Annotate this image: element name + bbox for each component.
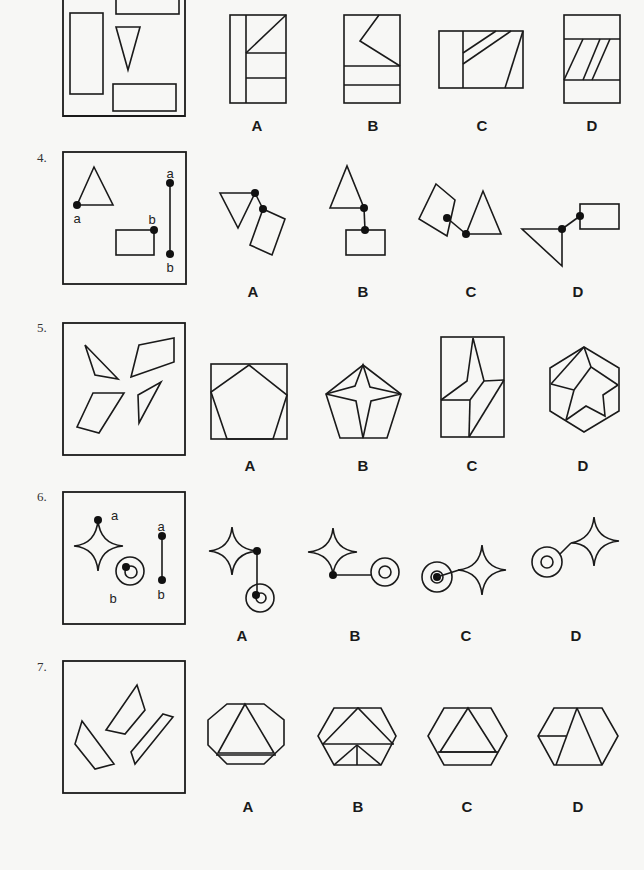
q6-option-d[interactable]: D <box>532 517 619 644</box>
quad-piece <box>106 685 145 734</box>
bottom-rectangle-shape <box>113 84 176 111</box>
quad-piece <box>131 338 174 377</box>
option-label: C <box>466 283 477 300</box>
strip-piece <box>131 714 173 764</box>
option-label: C <box>467 457 478 474</box>
question-6: 6. a b a b A <box>37 489 619 644</box>
question-3: A B C D <box>63 0 620 134</box>
tall-rectangle-shape <box>70 13 103 94</box>
question-number: 4. <box>37 150 47 165</box>
q3-option-c[interactable]: C <box>439 31 523 134</box>
q4-option-c[interactable]: C <box>419 184 501 300</box>
question-number: 5. <box>37 320 47 335</box>
rectangle-shape <box>116 230 154 255</box>
option-label: A <box>245 457 256 474</box>
option-label: A <box>248 283 259 300</box>
q3-prompt-box <box>63 0 185 116</box>
question-number: 7. <box>37 659 47 674</box>
question-4: 4. a b a b A <box>37 150 619 300</box>
point-a-dot <box>73 201 81 209</box>
triangle-shape <box>77 167 113 205</box>
option-label: B <box>353 798 364 815</box>
question-7: 7. A B C <box>37 659 618 815</box>
option-label: B <box>368 117 379 134</box>
option-label: D <box>587 117 598 134</box>
q5-option-b[interactable]: B <box>326 365 401 474</box>
q7-prompt-box <box>63 661 185 793</box>
q6-prompt-box: a b a b <box>63 492 185 624</box>
q7-option-a[interactable]: A <box>208 704 284 815</box>
concentric-circles-shape <box>116 557 144 585</box>
puzzle-page: A B C D 4. <box>0 0 644 870</box>
q4-prompt-box: a b a b <box>63 152 186 284</box>
q3-option-b[interactable]: B <box>344 15 400 134</box>
point-label: b <box>166 260 173 275</box>
point-label: a <box>166 166 174 181</box>
triangle-piece <box>138 382 161 423</box>
option-label: C <box>462 798 473 815</box>
q7-option-d[interactable]: D <box>538 708 618 815</box>
option-label: C <box>477 117 488 134</box>
q5-option-d[interactable]: D <box>550 347 619 474</box>
option-label: D <box>573 798 584 815</box>
question-5: 5. A B C <box>37 320 619 474</box>
four-point-star-shape <box>74 520 123 571</box>
point-label: a <box>73 211 81 226</box>
point-label: b <box>157 587 164 602</box>
q4-option-a[interactable]: A <box>220 189 285 300</box>
q5-option-a[interactable]: A <box>211 364 287 474</box>
point-label: a <box>157 519 165 534</box>
point-b-dot <box>150 226 158 234</box>
option-label: D <box>578 457 589 474</box>
triangle-shape <box>116 27 140 70</box>
option-label: B <box>358 283 369 300</box>
q7-option-c[interactable]: C <box>428 708 507 815</box>
top-rectangle-shape <box>116 0 179 14</box>
q5-prompt-box <box>63 323 185 455</box>
q7-option-b[interactable]: B <box>318 708 396 815</box>
option-label: D <box>571 627 582 644</box>
parallelogram-piece <box>77 393 124 433</box>
option-label: B <box>350 627 361 644</box>
q3-option-d[interactable]: D <box>564 15 620 134</box>
option-label: A <box>252 117 263 134</box>
option-label: B <box>358 457 369 474</box>
option-label: A <box>237 627 248 644</box>
q6-option-a[interactable]: A <box>209 527 274 644</box>
point-label: b <box>109 591 116 606</box>
q3-option-a[interactable]: A <box>230 15 286 134</box>
q5-option-c[interactable]: C <box>441 337 504 474</box>
triangle-piece <box>85 345 118 379</box>
option-label: A <box>243 798 254 815</box>
q4-option-b[interactable]: B <box>330 166 385 300</box>
q6-option-b[interactable]: B <box>308 528 399 644</box>
point-label: b <box>148 212 155 227</box>
question-number: 6. <box>37 489 47 504</box>
q4-option-d[interactable]: D <box>522 204 619 300</box>
point-label: a <box>111 508 119 523</box>
q6-option-c[interactable]: C <box>422 545 506 644</box>
option-label: C <box>461 627 472 644</box>
option-label: D <box>573 283 584 300</box>
